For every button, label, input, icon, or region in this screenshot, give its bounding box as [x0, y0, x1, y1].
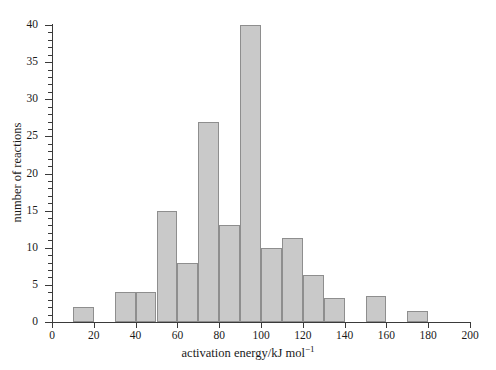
x-axis-major-tick — [219, 323, 220, 328]
x-axis-major-tick — [177, 323, 178, 328]
histogram-bar — [261, 248, 282, 322]
x-axis-tick-label: 200 — [450, 329, 490, 341]
x-axis-major-tick — [136, 323, 137, 328]
y-axis-tick-label: 5 — [0, 279, 38, 291]
y-axis-major-tick — [45, 322, 52, 323]
histogram-bar — [407, 311, 428, 322]
x-axis-tick-label: 180 — [408, 329, 448, 341]
x-axis-major-tick — [94, 323, 95, 328]
y-axis-major-tick — [45, 99, 52, 100]
y-axis-tick-label: 40 — [0, 19, 38, 31]
x-axis-tick-label: 140 — [325, 329, 365, 341]
histogram-bar — [303, 275, 324, 322]
histogram-bar — [198, 122, 219, 322]
y-axis-major-tick — [45, 285, 52, 286]
x-axis-title-exponent: −1 — [305, 344, 315, 354]
y-axis-tick-label: 35 — [0, 56, 38, 68]
x-axis-major-tick — [52, 323, 53, 328]
x-axis-title: activation energy/kJ mol−1 — [0, 344, 496, 361]
y-axis-tick-label: 0 — [0, 316, 38, 328]
y-axis-major-tick — [45, 174, 52, 175]
histogram-bar — [157, 211, 178, 322]
x-axis-major-tick — [345, 323, 346, 328]
histogram-bar — [219, 225, 240, 322]
histogram-chart: 0510152025303540 02040608010012014016018… — [0, 0, 496, 370]
x-axis-tick-label: 60 — [157, 329, 197, 341]
histogram-bar — [177, 263, 198, 322]
y-axis-major-tick — [45, 248, 52, 249]
y-axis-title: number of reactions — [10, 93, 25, 253]
x-axis-major-tick — [386, 323, 387, 328]
x-axis-major-tick — [428, 323, 429, 328]
plot-area — [52, 25, 470, 322]
x-axis-major-tick — [303, 323, 304, 328]
x-axis-tick-label: 40 — [116, 329, 156, 341]
histogram-bar — [115, 292, 136, 322]
y-axis-major-tick — [45, 136, 52, 137]
histogram-bar — [366, 296, 387, 322]
x-axis-major-tick — [261, 323, 262, 328]
x-axis-tick-label: 20 — [74, 329, 114, 341]
histogram-bar — [136, 292, 157, 322]
y-axis-major-tick — [45, 62, 52, 63]
histogram-bar — [240, 25, 261, 322]
histogram-bar — [73, 307, 94, 322]
x-axis-title-text: activation energy/kJ mol — [182, 346, 305, 360]
y-axis-major-tick — [45, 211, 52, 212]
x-axis-tick-label: 0 — [32, 329, 72, 341]
y-axis-major-tick — [45, 25, 52, 26]
histogram-bar — [324, 298, 345, 323]
x-axis-tick-label: 80 — [199, 329, 239, 341]
x-axis-tick-label: 100 — [241, 329, 281, 341]
x-axis-tick-label: 120 — [283, 329, 323, 341]
x-axis-major-tick — [470, 323, 471, 328]
histogram-bar — [282, 238, 303, 322]
x-axis-tick-label: 160 — [366, 329, 406, 341]
